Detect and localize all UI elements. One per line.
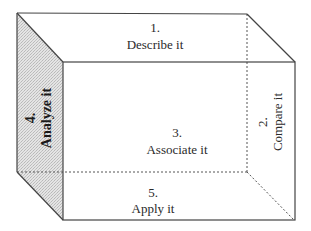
- top-face-number: 1.: [150, 20, 160, 35]
- front-face-number: 3.: [172, 125, 182, 140]
- right-face-label: 2. Compare it: [255, 93, 285, 152]
- top-face-label: 1. Describe it: [127, 20, 184, 52]
- front-face-text: Associate it: [146, 142, 207, 157]
- bottom-face-text: Apply it: [132, 201, 175, 216]
- front-face-label: 3. Associate it: [146, 125, 207, 157]
- top-right-depth-edge: [247, 14, 295, 62]
- bottom-face-number: 5.: [148, 185, 158, 200]
- left-face-number: 4.: [23, 113, 38, 124]
- bottom-right-depth-edge: [247, 172, 294, 220]
- left-face-text: Analyze it: [39, 88, 54, 149]
- top-face-text: Describe it: [127, 37, 184, 52]
- right-face-number: 2.: [255, 117, 270, 127]
- bottom-face-label: 5. Apply it: [132, 185, 175, 216]
- right-face-text: Compare it: [270, 93, 285, 152]
- cube-diagram: 1. Describe it 3. Associate it 5. Apply …: [0, 0, 311, 231]
- front-face-outline: [63, 62, 295, 220]
- back-top-edge: [17, 13, 247, 14]
